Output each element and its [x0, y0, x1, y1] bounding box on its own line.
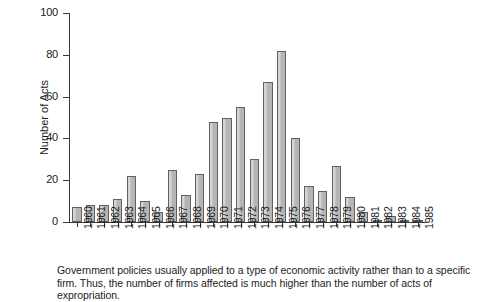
bar [72, 207, 81, 222]
x-tick-label-wrapper: 1970 [207, 229, 220, 265]
y-tick-mark [63, 180, 69, 181]
x-tick-label-wrapper: 1985 [412, 229, 425, 265]
x-tick-label: 1963 [123, 206, 136, 229]
x-tick-label: 1961 [95, 206, 108, 229]
x-tick-label: 1978 [328, 206, 341, 229]
x-tick-label: 1981 [369, 206, 382, 229]
x-tick-label: 1975 [287, 206, 300, 229]
x-tick-label: 1972 [246, 206, 259, 229]
x-tick-label: 1977 [314, 206, 327, 229]
y-tick-mark [63, 55, 69, 56]
x-tick-label: 1979 [341, 206, 354, 229]
x-tick-label: 1980 [355, 206, 368, 229]
x-tick-label-wrapper: 1971 [221, 229, 234, 265]
x-tick-label-wrapper: 1981 [358, 229, 371, 265]
x-tick-label: 1970 [218, 206, 231, 229]
x-tick-label-wrapper: 1979 [330, 229, 343, 265]
x-tick-mark [77, 223, 78, 227]
x-tick-label-wrapper: 1974 [262, 229, 275, 265]
x-tick-label-wrapper: 1962 [98, 229, 111, 265]
x-tick-label: 1985 [423, 206, 436, 229]
x-tick-label: 1973 [259, 206, 272, 229]
x-tick-label-wrapper: 1977 [303, 229, 316, 265]
x-tick-label: 1968 [191, 206, 204, 229]
y-tick-label: 100 [18, 7, 58, 18]
x-tick-label-wrapper: 1967 [166, 229, 179, 265]
x-tick-label: 1983 [396, 206, 409, 229]
x-tick-label-wrapper: 1968 [180, 229, 193, 265]
x-tick-label-wrapper: 1976 [289, 229, 302, 265]
y-tick-mark [63, 13, 69, 14]
x-tick-label-wrapper: 1966 [153, 229, 166, 265]
bar-series [70, 13, 425, 222]
x-tick-label-wrapper: 1984 [399, 229, 412, 265]
x-tick-label-wrapper: 1975 [276, 229, 289, 265]
x-tick-label: 1971 [232, 206, 245, 229]
x-tick-label-wrapper: 1978 [317, 229, 330, 265]
x-tick-label-wrapper: 1972 [235, 229, 248, 265]
x-tick-label: 1962 [109, 206, 122, 229]
x-tick-label-wrapper: 1961 [84, 229, 97, 265]
x-tick-label: 1960 [82, 206, 95, 229]
x-tick-label: 1976 [300, 206, 313, 229]
x-tick-label-wrapper: 1983 [385, 229, 398, 265]
y-tick-mark [63, 138, 69, 139]
x-tick-label: 1974 [273, 206, 286, 229]
y-tick-mark [63, 97, 69, 98]
x-tick-label-wrapper: 1969 [194, 229, 207, 265]
x-tick-label: 1967 [177, 206, 190, 229]
x-tick-label-wrapper: 1973 [248, 229, 261, 265]
x-tick-label: 1969 [205, 206, 218, 229]
bar [277, 51, 286, 222]
x-tick-label-wrapper: 1982 [371, 229, 384, 265]
x-tick-label-wrapper: 1960 [71, 229, 84, 265]
x-tick-label-wrapper: 1964 [125, 229, 138, 265]
bar [263, 82, 272, 222]
figure-caption: Government policies usually applied to a… [57, 264, 489, 302]
x-tick-label: 1965 [150, 206, 163, 229]
x-tick-label: 1984 [410, 206, 423, 229]
y-tick-label: 0 [18, 216, 58, 227]
x-tick-label: 1982 [382, 206, 395, 229]
x-tick-label: 1964 [136, 206, 149, 229]
x-tick-label-wrapper: 1963 [112, 229, 125, 265]
x-tick-label: 1966 [164, 206, 177, 229]
x-tick-label-wrapper: 1965 [139, 229, 152, 265]
y-tick-mark [63, 222, 69, 223]
x-tick-label-wrapper: 1980 [344, 229, 357, 265]
y-axis-title: Number of Acts [39, 57, 50, 177]
bar [236, 107, 245, 222]
